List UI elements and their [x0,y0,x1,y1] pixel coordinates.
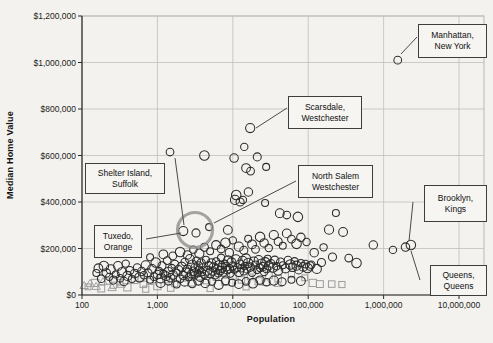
data-point-circle [332,209,339,216]
y-tick-label: $200,000 [41,244,77,254]
y-tick-label: $400,000 [41,197,77,207]
data-point-circle [263,163,270,170]
data-point-circle [255,232,265,242]
annotation-text-line: North Salem [312,171,359,182]
data-point-circle [317,258,325,266]
scatter-plot-figure: $0$200,000$400,000$600,000$800,000$1,000… [0,0,493,343]
data-point-circle [94,264,103,273]
data-point-circle [269,230,278,239]
data-point-circle [192,229,200,237]
data-point-circle [212,241,221,250]
data-point-square [309,279,316,286]
annotation-text-line: Queens, [442,270,474,281]
data-point-circle [239,196,246,203]
y-tick-label: $0 [67,290,77,300]
data-point-circle [122,260,129,267]
annotation-text-line: Kings [445,204,466,215]
y-axis-title: Median Home Value [5,55,17,255]
annotation-text-line: New York [435,41,471,52]
x-axis-title: Population [191,314,351,324]
y-tick-label: $600,000 [41,151,77,161]
data-point-square [316,281,323,288]
data-point-circle [265,244,272,251]
x-tick-label: 1,000 [147,300,169,310]
annotation-text-line: Shelter Island, [98,168,152,179]
data-point-circle [293,212,303,222]
data-point-circle [303,238,310,245]
data-point-circle [401,243,409,251]
data-point-circle [324,225,333,234]
data-point-circle [223,226,232,235]
annotation-text-line: Scarsdale, [305,102,345,113]
annotation-box-tuxedo: Tuxedo,Orange [94,225,142,258]
data-point-circle [179,226,188,235]
data-point-circle [242,164,251,173]
y-tick-label: $1,200,000 [33,11,76,21]
annotation-text-line: Brooklyn, [438,193,473,204]
y-tick-label: $1,000,000 [33,58,76,68]
x-tick-label: 100 [75,300,89,310]
x-tick-label: 10,000 [220,300,246,310]
data-point-square [328,281,335,288]
data-point-square [339,281,345,287]
annotation-text-line: Suffolk [112,179,138,190]
data-point-circle [282,229,291,238]
annotation-text-line: Orange [104,242,132,253]
data-point-circle [339,228,348,237]
data-point-circle [166,148,174,156]
data-point-circle [310,248,318,256]
callout-line-shelter-island [175,158,184,225]
callout-line-manhattan [401,37,417,54]
data-point-square [143,286,149,292]
data-point-circle [328,253,336,261]
data-point-circle [292,239,302,249]
data-point-circle [389,246,396,253]
data-point-circle [241,143,248,150]
callout-line-queens [411,251,420,280]
data-point-circle [244,188,252,196]
data-point-circle [262,199,269,206]
annotation-box-queens: Queens,Queens [430,265,487,296]
annotation-text-line: Tuxedo, [103,231,133,242]
callout-line-scarsdale [256,108,287,128]
data-point-circle [352,258,362,268]
data-point-circle [320,244,327,251]
x-tick-label: 100,000 [293,300,324,310]
y-tick-label: $800,000 [41,104,77,114]
annotation-text-line: Manhattan, [431,30,474,41]
data-point-circle [245,235,252,242]
data-point-circle [345,254,353,262]
data-point-circle [147,254,154,261]
callout-line-tuxedo [146,233,181,239]
annotation-text-line: Westchester [312,182,359,193]
data-point-circle [246,123,255,132]
annotation-box-scarsdale: Scarsdale,Westchester [288,96,362,129]
x-tick-label: 1,000,000 [365,300,403,310]
annotation-box-manhattan: Manhattan,New York [418,24,487,58]
data-point-circle [159,250,168,259]
annotation-box-shelter-island: Shelter Island,Suffolk [85,163,165,194]
annotation-text-line: Westchester [301,113,348,124]
annotation-box-north-salem: North SalemWestchester [298,165,373,198]
data-point-circle [274,237,282,245]
annotation-text-line: Queens [444,281,474,292]
callout-line-brooklyn [409,202,413,241]
x-tick-label: 10,000,000 [438,300,481,310]
data-point-circle [369,241,377,249]
data-point-circle [253,153,261,161]
annotation-box-brooklyn: Brooklyn,Kings [424,185,487,222]
